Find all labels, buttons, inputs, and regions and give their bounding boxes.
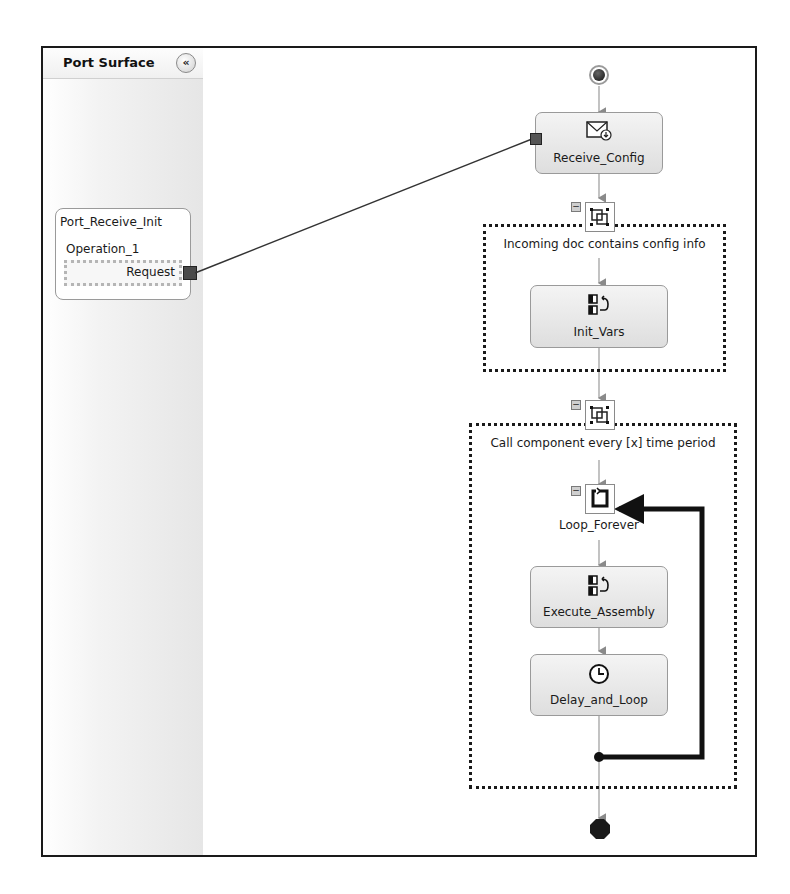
double-chevron-left-icon[interactable]: « <box>176 53 196 73</box>
scope-icon[interactable] <box>585 202 615 232</box>
port-surface-header: Port Surface « <box>43 48 203 79</box>
shape-label: Init_Vars <box>531 325 667 339</box>
loop-icon[interactable] <box>585 484 615 514</box>
shape-label: Receive_Config <box>536 151 662 165</box>
port-name: Port_Receive_Init <box>60 215 162 229</box>
expression-icon <box>588 294 610 316</box>
shape-execute-assembly[interactable]: Execute_Assembly <box>530 566 668 628</box>
collapse-scope-button[interactable]: − <box>571 202 581 212</box>
loop-label: Loop_Forever <box>549 518 649 532</box>
start-icon[interactable] <box>589 65 609 85</box>
port-connector-icon[interactable] <box>183 266 197 280</box>
scope-icon[interactable] <box>585 400 615 430</box>
expression-icon <box>588 575 610 597</box>
clock-icon <box>588 663 610 685</box>
envelope-receive-icon <box>586 121 612 141</box>
operation-message-request[interactable]: Request <box>64 260 182 286</box>
receive-port-connector-icon[interactable] <box>530 133 542 145</box>
shape-delay-and-loop[interactable]: Delay_and_Loop <box>530 654 668 716</box>
port-surface-title: Port Surface <box>63 55 155 70</box>
port-surface-panel: Port Surface « Port_Receive_Init Operati… <box>43 48 203 855</box>
scope-label: Incoming doc contains config info <box>486 237 723 251</box>
shape-receive-config[interactable]: Receive_Config <box>535 112 663 174</box>
shape-label: Delay_and_Loop <box>531 693 667 707</box>
port-port-receive-init[interactable]: Port_Receive_Init Operation_1 Request <box>55 208 191 300</box>
collapse-loop-button[interactable]: − <box>571 486 581 496</box>
orchestration-designer: Port Surface « Port_Receive_Init Operati… <box>41 46 757 857</box>
end-icon[interactable] <box>590 819 610 839</box>
message-label: Request <box>126 265 175 279</box>
collapse-scope-button[interactable]: − <box>571 400 581 410</box>
shape-label: Execute_Assembly <box>531 605 667 619</box>
operation-name[interactable]: Operation_1 <box>66 242 139 256</box>
scope-label: Call component every [x] time period <box>472 436 734 450</box>
shape-init-vars[interactable]: Init_Vars <box>530 285 668 348</box>
